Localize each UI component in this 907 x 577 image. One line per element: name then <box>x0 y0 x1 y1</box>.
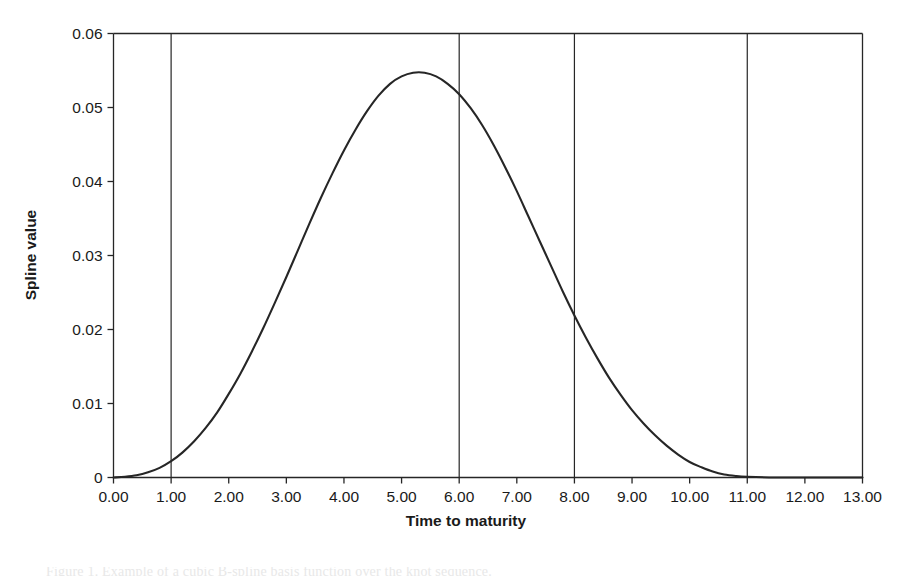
x-tick-label: 7.00 <box>502 488 533 505</box>
y-tick-label: 0.03 <box>72 247 102 264</box>
x-tick-label: 5.00 <box>386 488 417 505</box>
x-tick-label: 1.00 <box>156 488 187 505</box>
y-tick-label: 0.05 <box>72 99 102 116</box>
x-tick-label: 12.00 <box>785 488 824 505</box>
y-tick-label: 0.01 <box>72 395 102 412</box>
x-tick-label: 11.00 <box>728 488 766 505</box>
spline-chart: 0.001.002.003.004.005.006.007.008.009.00… <box>0 0 907 577</box>
x-tick-label: 0.00 <box>98 488 129 505</box>
x-tick-label: 8.00 <box>559 488 590 505</box>
y-tick-label: 0.04 <box>72 173 103 190</box>
x-tick-label: 3.00 <box>271 488 302 505</box>
y-axis-title: Spline value <box>22 209 39 300</box>
x-tick-label: 4.00 <box>329 488 360 505</box>
x-axis-title: Time to maturity <box>406 512 527 529</box>
x-tick-label: 6.00 <box>444 488 475 505</box>
y-tick-label: 0.02 <box>72 321 102 338</box>
figure-container: 0.001.002.003.004.005.006.007.008.009.00… <box>0 0 907 577</box>
x-tick-label: 13.00 <box>843 488 882 505</box>
x-tick-label: 10.00 <box>670 488 709 505</box>
x-tick-label: 2.00 <box>214 488 245 505</box>
figure-caption-fragment: Figure 1. Example of a cubic B-spline ba… <box>46 567 766 576</box>
y-tick-label: 0.06 <box>72 25 102 42</box>
x-tick-label: 9.00 <box>617 488 648 505</box>
y-tick-label: 0 <box>94 469 103 486</box>
